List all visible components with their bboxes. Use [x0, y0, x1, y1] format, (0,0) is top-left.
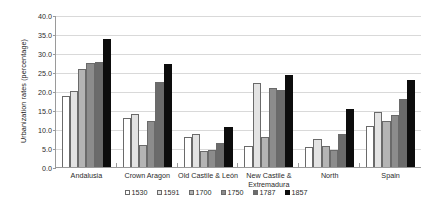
y-axis-tick-label: 5.0	[42, 145, 52, 154]
bar	[366, 126, 374, 167]
bar	[200, 151, 208, 167]
legend-swatch-icon	[285, 190, 290, 195]
bar	[216, 143, 224, 167]
legend-swatch-icon	[221, 190, 226, 195]
legend-item[interactable]: 1700	[189, 188, 212, 197]
bar	[155, 82, 163, 168]
bar	[86, 63, 94, 167]
bar	[164, 64, 172, 167]
y-axis-tick-label: 15.0	[38, 107, 52, 116]
legend-swatch-icon	[125, 190, 130, 195]
bar-group: Spain	[360, 16, 421, 167]
x-axis-category-label: Spain	[352, 171, 430, 180]
bar	[391, 115, 399, 167]
y-axis-tick-mark	[53, 168, 56, 169]
y-axis-tick-label: 40.0	[38, 12, 52, 21]
y-axis-title: Urbanization rates (percentage)	[20, 16, 28, 166]
legend-item-label: 1700	[196, 188, 212, 197]
bar	[374, 112, 382, 167]
plot-area: 0.05.010.015.020.025.030.035.040.0 Andal…	[55, 16, 421, 168]
bar	[62, 96, 70, 167]
legend-item-label: 1857	[292, 188, 308, 197]
urbanization-rates-bar-chart: Urbanization rates (percentage) 0.05.010…	[0, 0, 432, 207]
y-axis-tick-label: 25.0	[38, 69, 52, 78]
bar	[338, 134, 346, 167]
bar	[322, 146, 330, 167]
bar	[407, 80, 415, 167]
bar-group: Crown Aragon	[117, 16, 178, 167]
bar	[330, 150, 338, 167]
bar-groups: AndalusiaCrown AragonOld Castile & LeónN…	[56, 16, 421, 167]
legend-item-label: 1787	[260, 188, 276, 197]
legend-swatch-icon	[189, 190, 194, 195]
bar	[261, 137, 269, 167]
legend-item-label: 1750	[228, 188, 244, 197]
bar	[95, 62, 103, 167]
chart-legend: 153015911700175017871857	[0, 188, 432, 197]
bar	[399, 99, 407, 167]
legend-item[interactable]: 1591	[157, 188, 180, 197]
bar	[277, 90, 285, 167]
bar	[192, 134, 200, 167]
y-axis-tick-label: 10.0	[38, 126, 52, 135]
bar	[139, 145, 147, 167]
bar-group: Old Castile & León	[178, 16, 239, 167]
bar	[184, 137, 192, 167]
bar	[346, 109, 354, 167]
bar	[305, 147, 313, 167]
bar	[253, 83, 261, 167]
y-axis-tick-label: 30.0	[38, 50, 52, 59]
bar	[103, 39, 111, 167]
bar	[313, 139, 321, 167]
legend-item-label: 1530	[132, 188, 148, 197]
legend-item[interactable]: 1530	[125, 188, 148, 197]
legend-swatch-icon	[253, 190, 258, 195]
bar	[269, 88, 277, 167]
y-axis-tick-label: 20.0	[38, 88, 52, 97]
y-axis-tick-label: 35.0	[38, 31, 52, 40]
legend-item[interactable]: 1750	[221, 188, 244, 197]
bar	[131, 114, 139, 167]
bar	[208, 150, 216, 167]
legend-swatch-icon	[157, 190, 162, 195]
bar-group: Andalusia	[56, 16, 117, 167]
bar	[78, 69, 86, 167]
bar	[285, 75, 293, 167]
bar	[123, 118, 131, 167]
bar	[70, 91, 78, 167]
legend-item[interactable]: 1787	[253, 188, 276, 197]
bar	[147, 121, 155, 167]
bar	[244, 146, 252, 167]
legend-item[interactable]: 1857	[285, 188, 308, 197]
bar-group: New Castile & Extremadura	[238, 16, 299, 167]
legend-item-label: 1591	[164, 188, 180, 197]
bar-group: North	[299, 16, 360, 167]
bar	[224, 127, 232, 167]
bar	[382, 121, 390, 167]
